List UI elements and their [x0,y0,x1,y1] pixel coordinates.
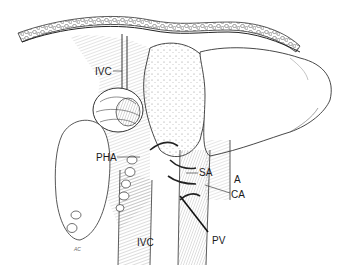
stomach [55,120,110,240]
label-pha: PHA [96,153,117,163]
label-pv: PV [212,236,225,246]
liver-lobe-left [200,48,331,156]
liver-illustration [0,0,345,265]
label-sa: SA [199,168,212,178]
label-ivc-top: IVC [95,67,112,77]
liver-lobe-right [144,43,208,156]
artist-signature: AC [74,246,81,252]
label-a: A [234,175,241,185]
anatomical-figure: IVC PHA SA A CA IVC PV AC [0,0,345,265]
label-ca: CA [231,190,245,200]
label-ivc-bottom: IVC [137,238,154,248]
